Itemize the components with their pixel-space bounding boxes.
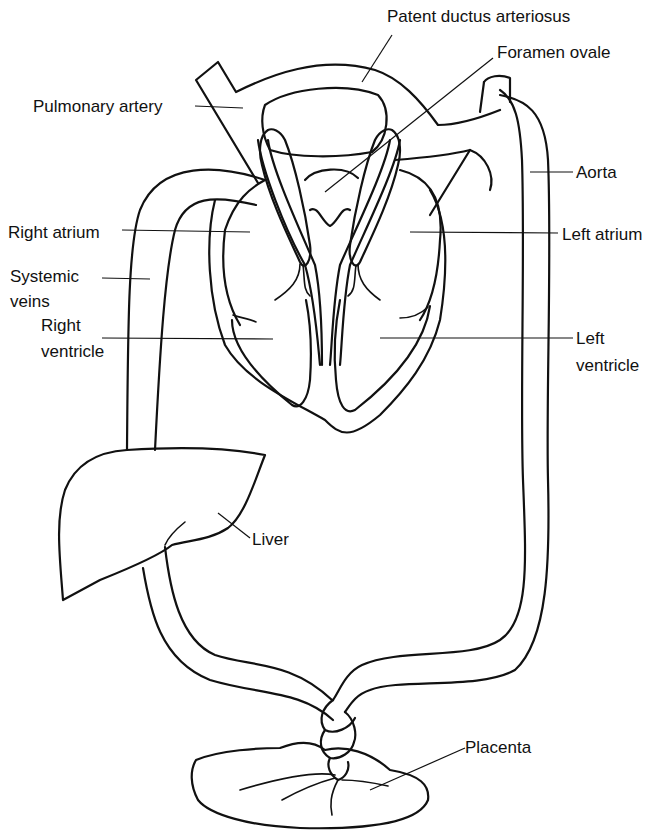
systemic-vein-tube	[127, 170, 265, 450]
label-patent-ductus-arteriosus: Patent ductus arteriosus	[387, 7, 570, 26]
label-right-ventricle-line1: Right	[41, 316, 81, 335]
label-liver: Liver	[252, 530, 289, 549]
label-systemic-veins-line1: Systemic	[10, 267, 79, 286]
liver	[59, 448, 265, 600]
label-foramen-ovale: Foramen ovale	[497, 43, 610, 62]
leader-right-atrium	[122, 230, 250, 232]
leader-lines	[102, 35, 573, 790]
umbilical-vein-tube	[143, 547, 333, 720]
label-pulmonary-artery: Pulmonary artery	[33, 97, 163, 116]
label-placenta: Placenta	[465, 738, 532, 757]
pulmonary-artery-arch	[196, 62, 500, 183]
label-aorta: Aorta	[576, 163, 617, 182]
leader-placenta	[370, 748, 465, 790]
leader-pulmonary-artery	[195, 106, 243, 108]
label-systemic-veins-line2: veins	[10, 292, 50, 311]
label-right-atrium: Right atrium	[8, 223, 100, 242]
fetal-circulation-diagram: Patent ductus arteriosus Foramen ovale P…	[0, 0, 670, 835]
leader-systemic-veins	[102, 278, 150, 279]
leader-liver	[218, 513, 250, 538]
label-left-atrium: Left atrium	[562, 225, 642, 244]
umbilical-cord	[321, 700, 355, 780]
label-right-ventricle-line2: ventricle	[41, 342, 104, 361]
label-left-ventricle-line2: ventricle	[576, 356, 639, 375]
placenta	[192, 743, 429, 828]
leader-left-atrium	[410, 232, 558, 233]
label-left-ventricle-line1: Left	[576, 329, 605, 348]
